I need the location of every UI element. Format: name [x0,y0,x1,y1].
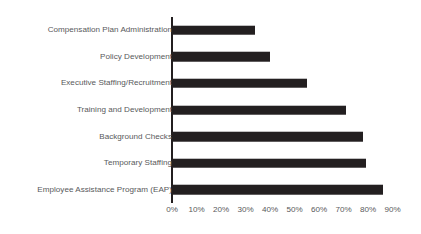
category-label: Compensation Plan Administration [7,26,172,35]
x-axis-tick-label: 20% [213,205,229,214]
bar [172,185,383,194]
bar-track [172,123,363,150]
category-label: Policy Development [7,52,172,61]
bar-chart-figure: Compensation Plan Administration Policy … [0,0,421,234]
plot-area: Compensation Plan Administration Policy … [0,0,421,234]
x-axis-tick-label: 0% [166,205,178,214]
bar-track [172,44,270,71]
category-label: Employee Assistance Program (EAP) [7,185,172,194]
bar-track [172,17,255,44]
bar-track [172,70,307,97]
category-label: Executive Staffing/Recruitment [7,79,172,88]
bar [172,158,366,167]
x-axis-tick-label: 80% [360,205,376,214]
category-label: Background Checks [7,132,172,141]
x-axis-tick-label: 70% [335,205,351,214]
category-label: Temporary Staffing [7,159,172,168]
bar-row: Executive Staffing/Recruitment [0,70,421,97]
bar [172,52,270,61]
bar-row: Compensation Plan Administration [0,17,421,44]
x-axis-tick-label: 60% [311,205,327,214]
bar-row: Policy Development [0,44,421,71]
bar-row: Temporary Staffing [0,150,421,177]
bar-row: Employee Assistance Program (EAP) [0,176,421,203]
bar [172,132,363,141]
bar-row: Background Checks [0,123,421,150]
bar-row: Training and Development [0,97,421,124]
category-label: Training and Development [7,106,172,115]
bar-track [172,97,346,124]
x-axis-tick-label: 40% [262,205,278,214]
bar-track [172,176,383,203]
bar [172,79,307,88]
bar-rows: Compensation Plan Administration Policy … [0,17,421,203]
x-axis-tick-label: 30% [237,205,253,214]
x-axis-tick-labels: 0%10%20%30%40%50%60%70%80%90% [0,205,421,219]
x-axis-tick-label: 50% [286,205,302,214]
bar-track [172,150,366,177]
bar [172,105,346,114]
bar [172,26,255,35]
x-axis-tick-label: 10% [188,205,204,214]
x-axis-tick-label: 90% [384,205,400,214]
